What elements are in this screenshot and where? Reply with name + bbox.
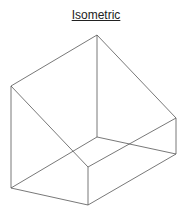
edge-apex-right	[97, 35, 176, 118]
isometric-drawing	[0, 0, 192, 215]
edge-bottom-right	[88, 154, 176, 205]
edge-bottom-left	[11, 188, 88, 205]
edge-left-slope	[11, 86, 88, 167]
edge-apex-left	[11, 35, 97, 86]
edge-right-slope	[88, 118, 176, 167]
